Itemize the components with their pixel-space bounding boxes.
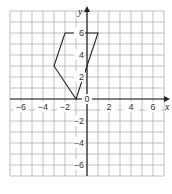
origin-label: 0 [84,94,89,104]
y-tick-label: −2 [74,116,84,126]
y-tick-label: 6 [79,28,84,38]
x-tick-label: −2 [60,102,70,112]
y-axis-label: y [77,6,83,17]
axes [10,6,170,176]
y-tick-label: −6 [74,160,84,170]
y-tick-label: 2 [79,72,84,82]
y-tick-label: −4 [74,138,84,148]
y-axis-arrow-icon [84,6,90,12]
x-tick-label: −4 [38,102,48,112]
x-axis-label: x [164,101,170,112]
y-tick-label: 4 [79,50,84,60]
coordinate-grid: −6−4−2246−6−4−22460 x y [0,0,172,194]
x-tick-label: 6 [150,102,155,112]
x-tick-label: −6 [16,102,26,112]
x-tick-label: 4 [128,102,133,112]
x-tick-label: 2 [106,102,111,112]
